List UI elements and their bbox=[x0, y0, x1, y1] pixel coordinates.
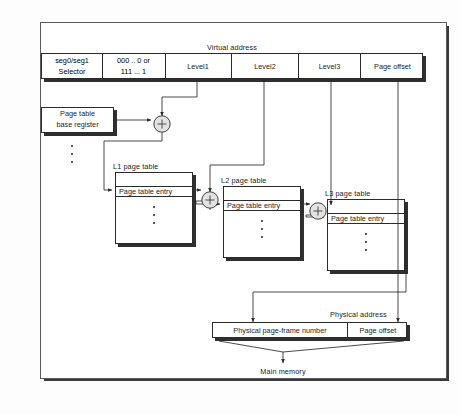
line-level2-to-adder2 bbox=[210, 79, 264, 192]
connector-layer bbox=[0, 0, 460, 414]
adder-3 bbox=[310, 203, 326, 219]
adder-1 bbox=[154, 116, 170, 132]
funnel-right-edge bbox=[283, 341, 404, 352]
line-adder1-to-l1-entry bbox=[104, 132, 162, 190]
adder-2 bbox=[202, 192, 218, 208]
funnel-left-edge bbox=[219, 341, 283, 352]
line-level1-to-adder1 bbox=[162, 79, 197, 116]
line-l3-entry-to-frame-number bbox=[253, 212, 406, 322]
